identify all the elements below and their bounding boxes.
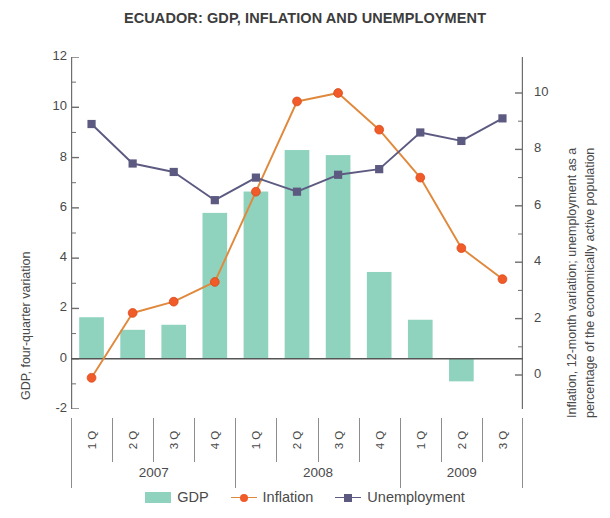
x-axis-quarter-cell: 3 Q (482, 418, 523, 462)
inflation-point-marker (169, 297, 178, 306)
x-axis-year-label: 2008 (235, 462, 399, 488)
y-right-tick-label: 0 (534, 366, 556, 381)
x-axis-quarter-band: 3 Q2 Q1 Q4 Q3 Q2 Q1 Q4 Q3 Q2 Q1 Q (71, 418, 523, 462)
x-axis-quarter-cell: 1 Q (71, 418, 112, 462)
legend-item[interactable]: GDP (145, 489, 208, 505)
gdp-bar (120, 330, 145, 359)
chart-legend: GDPInflationUnemployment (0, 489, 610, 505)
legend-bar-swatch-icon (145, 492, 171, 503)
legend-item[interactable]: Inflation (231, 489, 314, 505)
gdp-bar (244, 192, 269, 359)
y-right-tick-label: 4 (534, 253, 556, 268)
x-axis-quarter-label: 4 Q (374, 431, 386, 450)
inflation-point-marker (87, 373, 96, 382)
y-right-tick-label: 2 (534, 310, 556, 325)
y-left-tick-label: 4 (33, 249, 67, 264)
gdp-bar (285, 150, 310, 359)
gdp-bar (79, 317, 104, 358)
y-right-tick-label: 6 (534, 197, 556, 212)
y-right-tick-label: 10 (534, 84, 556, 99)
unemployment-point-marker (498, 114, 506, 122)
y-left-tick-label: 12 (33, 48, 67, 63)
y-left-tick-label: -2 (33, 400, 67, 415)
unemployment-point-marker (211, 196, 219, 204)
x-axis-quarter-cell: 1 Q (235, 418, 276, 462)
unemployment-point-marker (416, 128, 424, 136)
x-axis-quarter-label: 1 Q (86, 431, 98, 450)
legend-item-label: Unemployment (367, 489, 465, 505)
unemployment-point-marker (252, 174, 260, 182)
unemployment-point-marker (375, 165, 383, 173)
x-axis-year-label: 2007 (71, 462, 235, 488)
inflation-point-marker (498, 275, 507, 284)
year-band-right-edge (522, 462, 523, 488)
chart-figure: ECUADOR: GDP, INFLATION AND UNEMPLOYMENT… (0, 0, 610, 518)
x-axis-quarter-cell: 2 Q (112, 418, 153, 462)
x-axis-year-label: 2009 (400, 462, 523, 488)
gdp-bar (367, 272, 392, 359)
inflation-point-marker (334, 89, 343, 98)
x-axis-quarter-cell: 3 Q (153, 418, 194, 462)
unemployment-point-marker (87, 120, 95, 128)
x-axis-quarter-label: 4 Q (209, 431, 221, 450)
legend-square-marker-icon (344, 494, 352, 502)
plot-canvas (71, 57, 523, 409)
unemployment-point-marker (170, 168, 178, 176)
inflation-point-marker (457, 244, 466, 253)
x-axis-quarter-label: 2 Q (291, 431, 303, 450)
chart-title: ECUADOR: GDP, INFLATION AND UNEMPLOYMENT (0, 10, 610, 26)
x-axis-quarter-cell: 4 Q (194, 418, 235, 462)
plot-area (71, 57, 523, 409)
gdp-bar (408, 320, 433, 359)
x-axis-quarter-cell: 2 Q (276, 418, 317, 462)
y-right-tick-label: 8 (534, 140, 556, 155)
inflation-point-marker (293, 97, 302, 106)
unemployment-point-marker (334, 171, 342, 179)
legend-item-label: GDP (177, 489, 208, 505)
inflation-point-marker (128, 309, 137, 318)
legend-circle-marker-icon (240, 494, 248, 502)
x-axis-quarter-cell: 3 Q (318, 418, 359, 462)
inflation-point-marker (375, 125, 384, 134)
x-axis-quarter-label: 1 Q (415, 431, 427, 450)
x-axis-quarter-label: 2 Q (127, 431, 139, 450)
y-axis-right-title-line2: percentage of the economically active po… (583, 148, 597, 418)
y-left-tick-label: 2 (33, 299, 67, 314)
x-axis-quarter-label: 3 Q (168, 431, 180, 450)
x-axis-year-band: 200920082007 (71, 462, 523, 488)
x-axis-quarter-label: 3 Q (497, 431, 509, 450)
legend-item[interactable]: Unemployment (335, 489, 465, 505)
unemployment-point-marker (457, 137, 465, 145)
unemployment-point-marker (129, 159, 137, 167)
legend-line-swatch-icon (231, 492, 257, 503)
x-axis-quarter-label: 2 Q (456, 431, 468, 450)
inflation-point-marker (252, 187, 261, 196)
x-axis-quarter-cell: 4 Q (359, 418, 400, 462)
unemployment-point-marker (293, 188, 301, 196)
legend-item-label: Inflation (263, 489, 314, 505)
legend-line-swatch-icon (335, 492, 361, 503)
y-left-tick-label: 6 (33, 199, 67, 214)
y-axis-left-title: GDP, four-quarter variation (19, 252, 33, 400)
y-left-tick-label: 10 (33, 98, 67, 113)
gdp-bar (326, 155, 351, 359)
x-axis-quarter-label: 1 Q (250, 431, 262, 450)
x-axis-quarter-label: 3 Q (333, 431, 345, 450)
inflation-point-marker (210, 278, 219, 287)
gdp-bar (449, 359, 474, 382)
quarter-band-right-edge (522, 418, 523, 462)
gdp-bar (161, 325, 186, 359)
y-left-tick-label: 8 (33, 149, 67, 164)
x-axis-quarter-cell: 1 Q (400, 418, 441, 462)
y-axis-right-title-line1: Inflation, 12-month variation; unemploym… (565, 148, 579, 418)
x-axis-quarter-cell: 2 Q (441, 418, 482, 462)
inflation-point-marker (416, 173, 425, 182)
y-left-tick-label: 0 (33, 350, 67, 365)
